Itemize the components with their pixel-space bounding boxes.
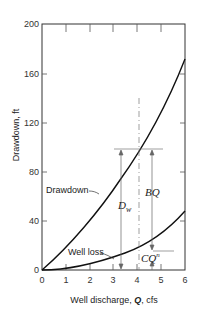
drawdown-leader — [89, 191, 99, 194]
x-tick-6: 6 — [182, 275, 187, 285]
x-axis — [66, 24, 161, 270]
bq-arrow — [150, 150, 154, 250]
y-tick-0: 0 — [34, 265, 39, 275]
dw-label: Dw — [117, 199, 132, 214]
wellloss-label: Well loss — [68, 247, 104, 257]
x-tick-2: 2 — [87, 275, 92, 285]
y-axis — [42, 74, 185, 221]
y-tick-80: 80 — [29, 167, 39, 177]
cqn-label: CQn — [141, 251, 160, 264]
y-axis-title: Drawdown, ft — [11, 108, 21, 161]
x-tick-1: 1 — [63, 275, 68, 285]
x-tick-3: 3 — [110, 275, 115, 285]
well-loss-curve — [42, 211, 185, 270]
x-tick-4: 4 — [134, 275, 139, 285]
x-tick-5: 5 — [158, 275, 163, 285]
y-tick-120: 120 — [24, 118, 39, 128]
y-tick-200: 200 — [24, 19, 39, 29]
bq-label: BQ — [145, 186, 160, 198]
plot-frame — [42, 24, 185, 270]
x-tick-0: 0 — [39, 275, 44, 285]
drawdown-label: Drawdown — [46, 185, 89, 195]
drawdown-curve — [42, 59, 185, 270]
chart-svg: 200 160 120 80 40 0 0 1 2 3 4 5 6 Well d… — [0, 0, 200, 321]
y-tick-40: 40 — [29, 216, 39, 226]
y-tick-160: 160 — [24, 69, 39, 79]
x-axis-title: Well discharge, Q, cfs — [70, 295, 158, 305]
